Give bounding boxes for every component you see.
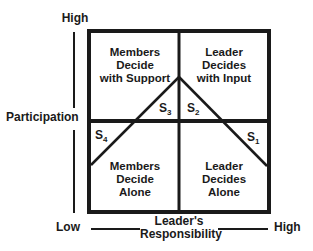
quadrant-top-left-line1: Members [93, 46, 177, 59]
quadrant-top-right-line3: with Input [182, 72, 266, 85]
style-s1-letter: S [247, 130, 255, 144]
x-axis-title-line2: Responsibility [140, 228, 218, 241]
quadrant-bottom-right-line1: Leader [182, 160, 266, 173]
quadrant-top-right-line1: Leader [182, 46, 266, 59]
style-s1-label: S1 [247, 130, 259, 146]
quadrant-bottom-left-line3: Alone [93, 186, 177, 199]
y-axis-title: Participation [6, 111, 84, 124]
x-axis-title: Leader's Responsibility [140, 215, 218, 241]
quadrant-top-right: Leader Decides with Input [182, 46, 266, 85]
style-s2-sub: 2 [195, 108, 199, 117]
style-s4-letter: S [95, 128, 103, 142]
style-s2-letter: S [187, 101, 195, 115]
style-s3-letter: S [159, 101, 167, 115]
style-s4-label: S4 [95, 128, 107, 144]
style-s2-label: S2 [187, 101, 199, 117]
style-s4-sub: 4 [103, 135, 107, 144]
quadrant-top-left-line3: with Support [93, 72, 177, 85]
quadrant-top-left-line2: Decide [93, 59, 177, 72]
quadrant-bottom-right: Leader Decides Alone [182, 160, 266, 199]
quadrant-top-left: Members Decide with Support [93, 46, 177, 85]
style-s3-label: S3 [159, 101, 171, 117]
quadrant-bottom-right-line2: Decides [182, 173, 266, 186]
style-s1-sub: 1 [255, 137, 259, 146]
quadrant-bottom-left-line1: Members [93, 160, 177, 173]
quadrant-bottom-left-line2: Decide [93, 173, 177, 186]
y-axis-high-label: High [60, 12, 90, 25]
quadrant-bottom-right-line3: Alone [182, 186, 266, 199]
quadrant-bottom-left: Members Decide Alone [93, 160, 177, 199]
style-s3-sub: 3 [167, 108, 171, 117]
quadrant-top-right-line2: Decides [182, 59, 266, 72]
x-axis-low-label: Low [56, 221, 82, 234]
x-axis-high-label: High [274, 221, 304, 234]
